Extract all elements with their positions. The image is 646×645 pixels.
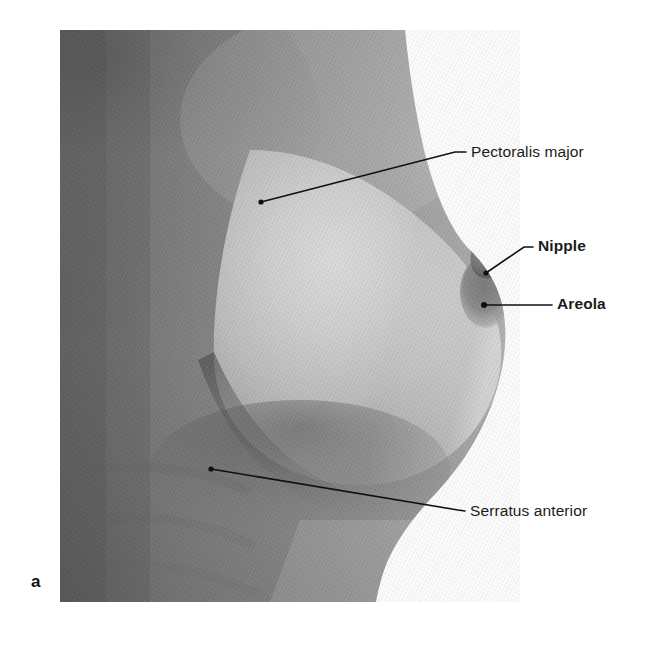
label-pectoralis-major: Pectoralis major (471, 144, 584, 160)
anatomy-figure-panel: Pectoralis major Nipple Areola Serratus … (0, 0, 646, 645)
anatomical-photograph (0, 0, 646, 645)
label-nipple: Nipple (538, 238, 586, 254)
panel-letter-label: a (31, 573, 40, 590)
label-areola: Areola (557, 296, 606, 312)
print-grain-texture (60, 30, 520, 602)
photo-clip-group (0, 0, 520, 602)
label-serratus-anterior: Serratus anterior (470, 503, 587, 519)
